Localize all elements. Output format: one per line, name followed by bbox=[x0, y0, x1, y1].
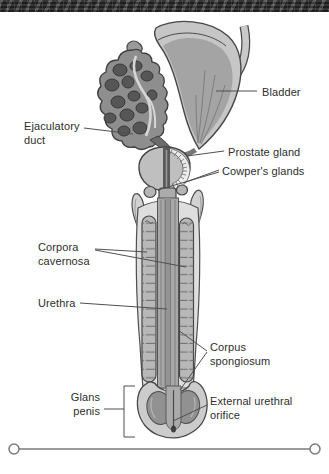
label-external-urethral-orifice: External urethral orifice bbox=[210, 394, 322, 423]
label-prostate-gland: Prostate gland bbox=[228, 145, 300, 159]
label-bladder: Bladder bbox=[262, 85, 301, 99]
corpus-cavernosum-left-shape bbox=[142, 216, 156, 382]
cowpers-gland-right-shape bbox=[177, 185, 188, 195]
cowpers-gland-left-shape bbox=[144, 187, 156, 198]
seminal-vesicle-shape bbox=[98, 41, 168, 149]
label-urethra: Urethra bbox=[38, 296, 75, 310]
corpus-cavernosum-right-shape bbox=[180, 218, 194, 382]
label-ejaculatory-duct: Ejaculatory duct bbox=[24, 119, 96, 148]
prostate-shape bbox=[139, 147, 190, 191]
glans-bracket bbox=[124, 386, 135, 437]
bottom-rule bbox=[9, 444, 320, 454]
urethra-column-shape bbox=[158, 198, 179, 388]
figure-panel: Bladder Ejaculatory duct Prostate gland … bbox=[0, 0, 329, 474]
bladder-shape bbox=[155, 21, 241, 149]
external-urethral-orifice-shape bbox=[171, 426, 176, 433]
label-corpora-cavernosa: Corpora cavernosa bbox=[38, 240, 118, 269]
label-corpus-spongiosum: Corpus spongiosum bbox=[210, 340, 302, 369]
label-cowpers-glands: Cowper's glands bbox=[222, 164, 304, 178]
label-glans-penis: Glans penis bbox=[56, 390, 100, 419]
